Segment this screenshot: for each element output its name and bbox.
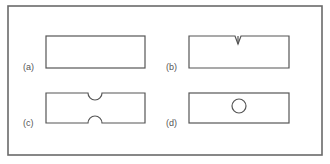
label-a: (a) <box>23 62 34 72</box>
plain-bar <box>46 36 145 68</box>
panel-b: (b) <box>166 36 289 72</box>
label-d: (d) <box>166 118 177 128</box>
label-b: (b) <box>166 62 177 72</box>
outer-frame <box>8 6 322 155</box>
holed-bar <box>189 93 289 123</box>
notch-diagram: (a) (b) (c) (d) <box>0 0 330 164</box>
v-notched-bar <box>189 36 289 68</box>
label-c: (c) <box>23 118 34 128</box>
hole-circle-icon <box>232 99 246 113</box>
panel-d: (d) <box>166 93 289 128</box>
semicircle-notched-bar <box>46 93 145 123</box>
panel-a: (a) <box>23 36 145 72</box>
panel-c: (c) <box>23 93 145 128</box>
